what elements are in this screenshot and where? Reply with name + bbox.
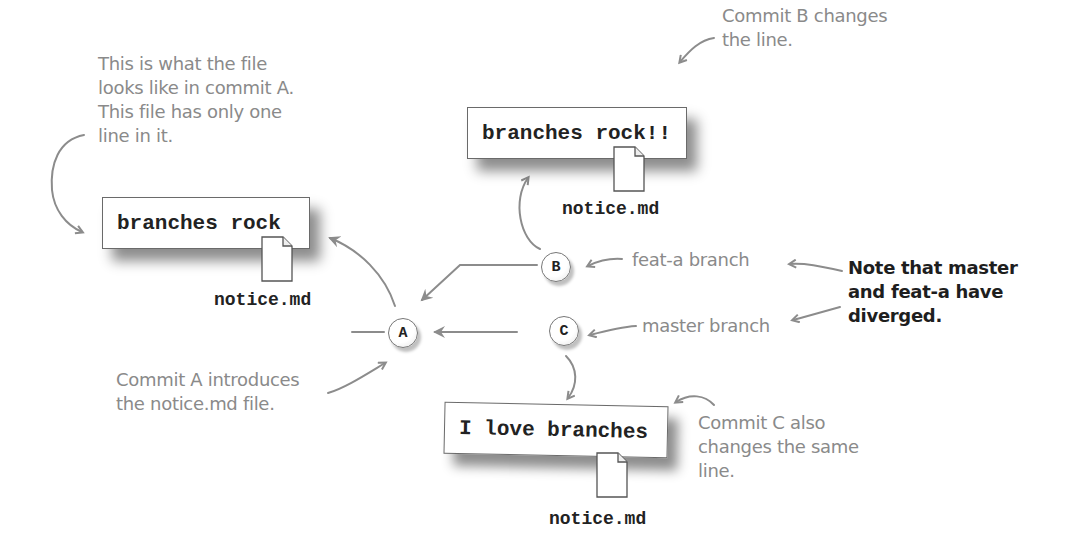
label-feat-a-branch: feat-a branch <box>632 248 749 272</box>
arrow-commit-a-to-file-a <box>330 238 395 306</box>
file-a-filename: notice.md <box>214 290 311 310</box>
annotation-commit-c-changes: Commit C also changes the same line. <box>698 411 859 483</box>
commit-b-label: B <box>551 259 560 276</box>
arrow-annotation-to-file-b <box>680 38 714 62</box>
arrow-note-to-master <box>793 307 840 320</box>
file-c-filename: notice.md <box>549 509 646 529</box>
note-diverged: Note that master and feat-a have diverge… <box>848 256 1017 328</box>
arrow-annotation-to-file-a <box>52 135 84 232</box>
arrow-commit-c-to-file-c <box>566 356 575 398</box>
commit-node-c: C <box>549 316 579 346</box>
label-master-branch: master branch <box>642 314 770 338</box>
commit-a-label: A <box>398 325 407 342</box>
arrow-note-to-feat-a <box>790 264 842 271</box>
arrow-feat-a-to-b <box>588 259 622 266</box>
file-c-content: I love branches <box>459 416 648 443</box>
file-c-content-box: I love branches <box>443 402 668 459</box>
annotation-commit-a-file: This is what the file looks like in comm… <box>98 52 294 148</box>
document-icon <box>596 452 628 498</box>
arrow-annotation-to-commit-a <box>328 363 385 393</box>
arrow-commit-b-to-file-b <box>519 178 540 249</box>
file-b-content-box: branches rock!! <box>467 107 687 159</box>
commit-c-label: C <box>559 323 568 340</box>
file-b-filename: notice.md <box>562 199 659 219</box>
arrow-commit-b-to-commit-a <box>422 265 537 300</box>
commit-node-a: A <box>388 318 418 348</box>
file-a-content: branches rock <box>117 212 281 235</box>
arrow-master-to-c <box>590 326 636 335</box>
document-icon <box>261 236 293 282</box>
file-b-content: branches rock!! <box>482 122 671 145</box>
commit-node-b: B <box>541 252 571 282</box>
arrow-annotation-to-file-c <box>676 396 714 405</box>
annotation-commit-b-changes: Commit B changes the line. <box>722 4 887 52</box>
annotation-commit-a-introduces: Commit A introduces the notice.md file. <box>116 368 299 416</box>
document-icon <box>613 146 645 192</box>
